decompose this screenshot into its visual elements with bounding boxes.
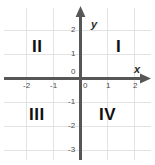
x-tick-label-0: 0	[83, 82, 87, 90]
x-tick-label-1: 1	[106, 82, 110, 90]
quadrant-label-2: II	[32, 38, 42, 55]
y-tick-label--1: -1	[68, 98, 75, 106]
quadrant-label-1: I	[116, 38, 121, 55]
y-tick-label--3: -3	[68, 146, 75, 154]
x-axis-label: x	[134, 64, 140, 75]
x-tick-label-2: 2	[133, 82, 137, 90]
quadrant-label-4: IV	[99, 106, 116, 123]
x-tick-label--1: -1	[50, 82, 57, 90]
x-tick-label--2: -2	[23, 82, 30, 90]
y-tick-label--2: -2	[68, 122, 75, 130]
y-axis-label: y	[91, 19, 97, 30]
y-tick-label-2: 2	[71, 26, 75, 34]
quadrant-label-3: III	[29, 106, 45, 123]
coordinate-plane: y x -2 -1 0 1 2 2 1 0 -1 -2 -3 I II III …	[0, 0, 155, 165]
x-axis-arrowhead	[140, 74, 151, 84]
y-axis-arrowhead	[76, 6, 86, 17]
y-tick-label-1: 1	[71, 50, 75, 58]
y-tick-label-0: 0	[71, 68, 75, 76]
